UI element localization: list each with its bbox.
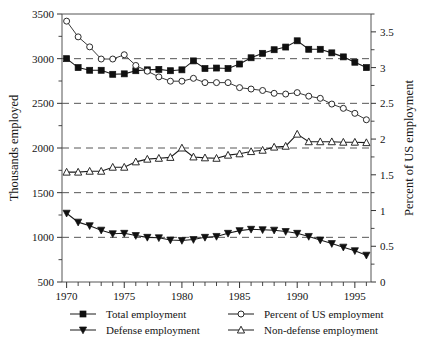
y2-tick-label-2: 2 — [380, 133, 386, 145]
legend-marker-square-filled — [80, 311, 86, 317]
legend-label: Non-defense employment — [264, 324, 378, 336]
data-point-0-10 — [179, 67, 185, 73]
data-point-0-15 — [237, 61, 243, 67]
employment-chart-figure: 50010001500200025003000350000.511.522.53… — [0, 0, 428, 346]
data-point-3-25 — [352, 110, 358, 116]
data-point-3-3 — [98, 56, 104, 62]
x-tick-label-1975: 1975 — [113, 290, 136, 302]
data-point-0-12 — [202, 65, 208, 71]
data-point-0-18 — [271, 47, 277, 53]
data-point-3-14 — [225, 80, 231, 86]
y-tick-label-3500: 3500 — [32, 8, 55, 20]
data-point-0-20 — [294, 38, 300, 44]
data-point-0-9 — [167, 68, 173, 74]
data-point-3-6 — [133, 62, 139, 68]
y-tick-label-3000: 3000 — [32, 53, 55, 65]
data-point-0-8 — [156, 66, 162, 72]
data-point-0-16 — [248, 55, 254, 61]
y2-tick-label-2.5: 2.5 — [380, 97, 394, 109]
y2-tick-label-3: 3 — [380, 62, 386, 74]
data-point-3-8 — [156, 74, 162, 80]
data-point-0-13 — [214, 65, 220, 71]
x-tick-label-1970: 1970 — [56, 290, 79, 302]
data-point-3-17 — [260, 87, 266, 93]
legend-label: Defense employment — [106, 324, 200, 336]
y2-tick-label-1: 1 — [380, 205, 386, 217]
y2-axis-title: Percent of US employment — [402, 80, 416, 216]
legend-label: Percent of US employment — [264, 308, 383, 320]
data-point-3-24 — [340, 105, 346, 111]
data-point-3-22 — [317, 95, 323, 101]
data-point-3-5 — [121, 52, 127, 58]
x-tick-label-1980: 1980 — [171, 290, 194, 302]
data-point-3-20 — [294, 90, 300, 96]
data-point-0-24 — [340, 54, 346, 60]
data-point-0-3 — [98, 67, 104, 73]
x-tick-label-1995: 1995 — [344, 290, 367, 302]
data-point-3-9 — [167, 78, 173, 84]
data-point-0-23 — [329, 50, 335, 56]
data-point-3-0 — [64, 18, 70, 24]
data-point-0-4 — [110, 71, 116, 77]
data-point-0-22 — [317, 46, 323, 52]
data-point-3-7 — [144, 68, 150, 74]
data-point-0-11 — [190, 58, 196, 64]
x-tick-label-1985: 1985 — [229, 290, 252, 302]
y-tick-label-500: 500 — [38, 276, 55, 288]
data-point-0-5 — [121, 71, 127, 77]
data-point-0-25 — [352, 59, 358, 65]
data-point-0-2 — [87, 67, 93, 73]
y-tick-label-1500: 1500 — [32, 187, 55, 199]
y-axis-title: Thousands employed — [7, 94, 21, 201]
y2-tick-label-0.5: 0.5 — [380, 240, 394, 252]
data-point-3-19 — [283, 91, 289, 97]
data-point-3-16 — [248, 86, 254, 92]
data-point-0-26 — [363, 65, 369, 71]
data-point-0-14 — [225, 65, 231, 71]
data-point-3-23 — [329, 101, 335, 107]
data-point-0-19 — [283, 44, 289, 50]
data-point-3-21 — [306, 93, 312, 99]
legend-marker-circle-open — [238, 311, 244, 317]
data-point-3-4 — [110, 56, 116, 62]
data-point-3-11 — [190, 75, 196, 81]
data-point-0-0 — [64, 56, 70, 62]
data-point-3-13 — [214, 80, 220, 86]
data-point-0-17 — [260, 50, 266, 56]
y2-tick-label-1.5: 1.5 — [380, 169, 394, 181]
data-point-3-15 — [237, 85, 243, 91]
y-tick-label-2500: 2500 — [32, 97, 55, 109]
chart-canvas: 50010001500200025003000350000.511.522.53… — [0, 0, 428, 346]
y2-tick-label-0: 0 — [380, 276, 386, 288]
data-point-3-26 — [363, 117, 369, 123]
data-point-3-2 — [87, 44, 93, 50]
y2-tick-label-3.5: 3.5 — [380, 26, 394, 38]
legend-label: Total employment — [106, 308, 186, 320]
y-tick-label-1000: 1000 — [32, 231, 55, 243]
data-point-0-1 — [75, 65, 81, 71]
data-point-3-18 — [271, 90, 277, 96]
y-tick-label-2000: 2000 — [32, 142, 55, 154]
data-point-0-21 — [306, 46, 312, 52]
data-point-3-10 — [179, 78, 185, 84]
data-point-3-12 — [202, 80, 208, 86]
data-point-3-1 — [75, 34, 81, 40]
x-tick-label-1990: 1990 — [286, 290, 309, 302]
